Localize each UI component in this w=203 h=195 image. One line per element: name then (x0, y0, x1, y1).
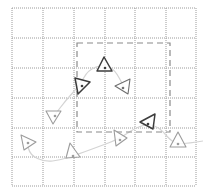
trajectory-diagram (0, 0, 203, 195)
pose-marker-p8 (140, 114, 155, 129)
diagram-canvas (0, 0, 203, 195)
pose-marker-p6 (66, 143, 80, 158)
center-dot-icon (72, 155, 75, 158)
trajectory-upper (54, 66, 124, 117)
pose-marker-p2 (46, 111, 61, 124)
center-dot-icon (27, 142, 30, 145)
pose-markers (21, 57, 186, 158)
pose-marker-p3 (75, 78, 90, 94)
pose-marker-p5 (115, 79, 130, 94)
triangle-icon (115, 79, 130, 94)
center-dot-icon (177, 143, 180, 146)
center-dot-icon (147, 123, 150, 126)
center-dot-icon (122, 87, 125, 90)
center-dot-icon (54, 115, 57, 118)
center-dot-icon (81, 85, 84, 88)
pose-marker-p9 (170, 132, 186, 147)
triangle-icon (46, 111, 61, 124)
pose-marker-p4 (97, 57, 112, 71)
triangle-icon (140, 114, 155, 129)
center-dot-icon (119, 139, 122, 142)
center-dot-icon (104, 67, 107, 70)
